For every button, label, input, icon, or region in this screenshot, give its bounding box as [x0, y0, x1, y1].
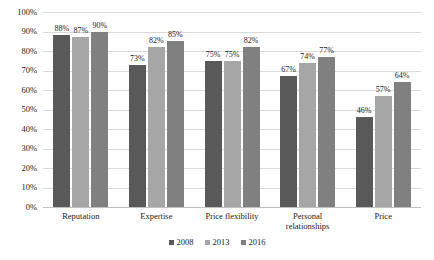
y-axis-tick-label: 40% — [21, 125, 37, 134]
bar-value-label: 46% — [352, 107, 376, 115]
bar-group: 73%82%85% — [129, 12, 184, 207]
bar — [356, 117, 373, 207]
bar-group: 46%57%64% — [356, 12, 411, 207]
bar — [148, 47, 165, 207]
bar-value-label: 67% — [277, 66, 301, 74]
chart-legend: 200820132016 — [0, 238, 434, 247]
y-axis-tick-label: 100% — [17, 8, 37, 17]
y-axis-tick-label: 30% — [21, 144, 37, 153]
x-axis-category-label: Expertise — [119, 211, 195, 221]
bar-value-label: 77% — [315, 47, 339, 55]
bar — [91, 32, 108, 208]
x-axis-category-label: Price — [345, 211, 421, 221]
legend-label: 2013 — [213, 238, 230, 247]
y-axis-tick-label: 50% — [21, 105, 37, 114]
x-axis-category-label: Reputation — [43, 211, 119, 221]
bar-value-label: 90% — [88, 22, 112, 30]
bar — [375, 96, 392, 207]
bar-group: 67%74%77% — [280, 12, 335, 207]
y-axis-tick-label: 90% — [21, 27, 37, 36]
y-axis-tick-label: 60% — [21, 86, 37, 95]
y-axis-labels: 0%10%20%30%40%50%60%70%80%90%100% — [0, 0, 40, 260]
bar — [72, 37, 89, 207]
bar — [243, 47, 260, 207]
legend-swatch-icon — [205, 240, 210, 245]
plot-area: 88%87%90%73%82%85%75%75%82%67%74%77%46%5… — [43, 12, 421, 207]
bar-value-label: 73% — [125, 55, 149, 63]
gridline — [43, 207, 421, 208]
bar — [167, 41, 184, 207]
legend-label: 2008 — [177, 238, 194, 247]
bar — [53, 35, 70, 207]
bar — [318, 57, 335, 207]
legend-label: 2016 — [249, 238, 266, 247]
legend-item[interactable]: 2008 — [169, 238, 194, 247]
legend-swatch-icon — [169, 240, 174, 245]
bar-value-label: 75% — [220, 51, 244, 59]
bar — [280, 76, 297, 207]
bar — [299, 63, 316, 207]
legend-item[interactable]: 2016 — [241, 238, 266, 247]
y-axis-tick-label: 0% — [26, 203, 37, 212]
y-axis-tick-label: 20% — [21, 164, 37, 173]
bar-group: 75%75%82% — [205, 12, 260, 207]
bar — [205, 61, 222, 207]
bar — [394, 82, 411, 207]
y-axis-tick-label: 10% — [21, 183, 37, 192]
bar-chart: 0%10%20%30%40%50%60%70%80%90%100% 88%87%… — [0, 0, 434, 260]
bar-value-label: 57% — [371, 86, 395, 94]
x-axis-category-label: Price flexibility — [194, 211, 270, 221]
bar-value-label: 82% — [239, 37, 263, 45]
bar-value-label: 85% — [163, 31, 187, 39]
legend-item[interactable]: 2013 — [205, 238, 230, 247]
legend-swatch-icon — [241, 240, 246, 245]
bar — [129, 65, 146, 207]
bar-value-label: 64% — [390, 72, 414, 80]
y-axis-tick-label: 70% — [21, 66, 37, 75]
bar-group: 88%87%90% — [53, 12, 108, 207]
bar — [224, 61, 241, 207]
x-axis-category-label: Personal relationships — [270, 211, 346, 231]
y-axis-tick-label: 80% — [21, 47, 37, 56]
